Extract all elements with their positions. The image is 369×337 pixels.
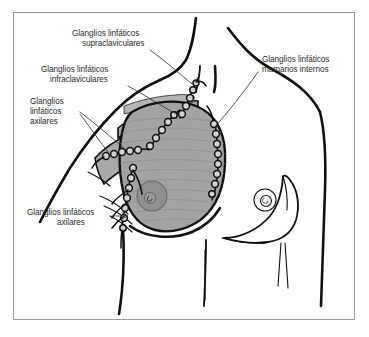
leader-supraclavicular bbox=[150, 50, 192, 84]
label-axillary-lower-line2: axilares bbox=[57, 218, 85, 227]
right-arm-outline bbox=[320, 112, 325, 306]
label-axillary-upper: Glanglios linfáticos axilares bbox=[30, 97, 66, 126]
figure-root: Glanglios linfáticos supraclaviculares G… bbox=[0, 0, 369, 337]
label-axillary-lower: Glanglios linfáticos axilares bbox=[27, 208, 97, 227]
label-supraclavicular: Glanglios linfáticos supraclaviculares bbox=[72, 29, 144, 48]
label-internal-mammary-line2: mamarios internos bbox=[262, 65, 329, 74]
nipple bbox=[145, 193, 156, 204]
label-supraclavicular-line2: supraclaviculares bbox=[82, 39, 144, 48]
label-axillary-upper-line1: Glanglios bbox=[30, 97, 64, 106]
anatomy-illustration: Glanglios linfáticos supraclaviculares G… bbox=[0, 0, 369, 337]
neck-left-outline bbox=[160, 18, 196, 80]
label-infraclavicular: Glanglios linfáticos infraclaviculares bbox=[41, 65, 111, 84]
leader-internal-mammary bbox=[214, 72, 258, 128]
label-axillary-upper-line2: linfáticos bbox=[30, 107, 61, 116]
right-breast-outline-group bbox=[222, 176, 298, 288]
label-infraclavicular-line2: infraclaviculares bbox=[50, 75, 108, 84]
neck-right-outline bbox=[214, 66, 216, 92]
label-internal-mammary-line1: Glanglios linfáticos bbox=[262, 55, 329, 64]
label-supraclavicular-line1: Glanglios linfáticos bbox=[72, 29, 139, 38]
label-axillary-lower-line1: Glanglios linfáticos bbox=[27, 208, 94, 217]
label-infraclavicular-line1: Glanglios linfáticos bbox=[41, 65, 108, 74]
label-axillary-upper-line3: axilares bbox=[30, 117, 58, 126]
label-internal-mammary: Glanglios linfáticos mamarios internos bbox=[262, 55, 332, 74]
